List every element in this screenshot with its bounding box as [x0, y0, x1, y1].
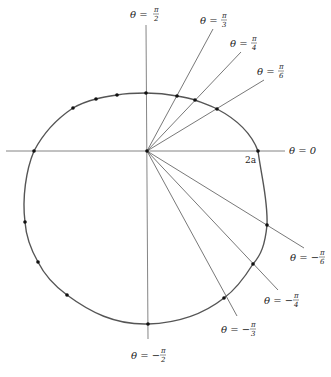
- svg-text:3: 3: [251, 330, 256, 338]
- svg-text:θ =: θ =: [257, 66, 275, 77]
- svg-text:θ = −: θ = −: [264, 295, 293, 306]
- polar-axis-vertical: [146, 25, 148, 339]
- label-theta-pi-4: θ = π 4: [230, 35, 257, 52]
- label-theta-0: θ = 0: [289, 145, 317, 156]
- svg-text:θ =: θ =: [230, 38, 248, 49]
- point-theta-pi-3: [175, 94, 179, 98]
- svg-text:θ = −: θ = −: [221, 324, 250, 335]
- point-theta-pi: [32, 149, 36, 153]
- point-theta-neg-pi-2: [146, 322, 150, 326]
- ray-pi-6: [147, 80, 264, 151]
- ray-neg-pi-6: [147, 151, 304, 248]
- point-theta-neg-pi-4: [251, 262, 255, 266]
- label-theta-pi-2: θ = π 2: [130, 6, 159, 23]
- point-lower-left-3: [65, 293, 69, 297]
- polar-curve: [24, 93, 267, 324]
- polar-curve-figure: θ = 0 2a θ = π 2 θ = π 3 θ = π 4 θ = π 6…: [0, 0, 331, 377]
- ray-neg-pi-3: [147, 151, 237, 316]
- svg-text:π: π: [250, 321, 256, 329]
- svg-text:θ =: θ =: [200, 15, 218, 26]
- svg-text:4: 4: [293, 301, 298, 309]
- svg-text:π: π: [221, 12, 227, 20]
- svg-text:3: 3: [222, 21, 227, 29]
- svg-text:π: π: [153, 6, 159, 14]
- point-upper-left-2: [94, 97, 98, 101]
- label-theta-pi-6: θ = π 6: [257, 63, 284, 80]
- point-theta-neg-pi-6: [265, 223, 269, 227]
- label-theta-neg-pi-3: θ = − π 3: [221, 321, 256, 338]
- svg-text:6: 6: [279, 72, 284, 80]
- svg-text:π: π: [293, 292, 299, 300]
- point-theta-pi-6: [215, 107, 219, 111]
- svg-text:π: π: [319, 249, 325, 257]
- ray-neg-pi-4: [147, 151, 278, 290]
- ray-pi-4: [147, 52, 241, 151]
- label-theta-neg-pi-4: θ = − π 4: [264, 292, 299, 309]
- svg-text:θ =: θ =: [130, 9, 148, 20]
- svg-text:4: 4: [251, 44, 256, 52]
- point-upper-left-1: [115, 93, 119, 97]
- point-lower-left-2: [36, 260, 40, 264]
- label-theta-neg-pi-2: θ = − π 2: [131, 347, 166, 364]
- label-theta-pi-3: θ = π 3: [200, 12, 227, 29]
- origin-point: [145, 149, 149, 153]
- label-radius-2a: 2a: [245, 155, 257, 165]
- svg-text:π: π: [251, 35, 257, 43]
- point-theta-pi-4: [193, 98, 197, 102]
- label-theta-neg-pi-6: θ = − π 6: [290, 249, 325, 266]
- ray-pi-3: [147, 29, 213, 151]
- point-theta-0: [256, 149, 260, 153]
- point-theta-neg-pi-3: [222, 296, 226, 300]
- svg-text:6: 6: [320, 258, 325, 266]
- svg-text:π: π: [160, 347, 166, 355]
- point-upper-left-3: [71, 106, 75, 110]
- svg-text:θ = −: θ = −: [131, 350, 160, 361]
- svg-text:2: 2: [153, 15, 159, 23]
- point-theta-pi-2: [144, 91, 148, 95]
- svg-text:π: π: [278, 63, 284, 71]
- svg-text:θ = −: θ = −: [290, 252, 319, 263]
- point-lower-left-1: [23, 220, 27, 224]
- svg-text:2: 2: [160, 356, 166, 364]
